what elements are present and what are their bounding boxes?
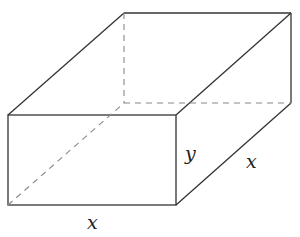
hidden-bottom-left bbox=[8, 103, 124, 205]
visible-edges bbox=[8, 13, 291, 205]
width-label: x bbox=[87, 211, 98, 233]
front-face bbox=[8, 115, 176, 205]
box-diagram: y x x bbox=[0, 0, 300, 237]
height-label: y bbox=[184, 142, 196, 164]
top-left-edge bbox=[8, 13, 124, 115]
hidden-edges bbox=[8, 13, 291, 205]
depth-label: x bbox=[246, 150, 257, 172]
top-right-edge bbox=[176, 13, 291, 115]
